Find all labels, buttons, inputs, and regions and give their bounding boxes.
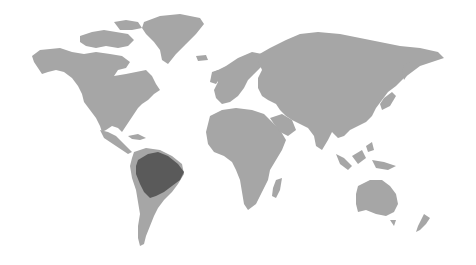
australia xyxy=(356,180,398,216)
new-zealand xyxy=(416,214,430,232)
land xyxy=(32,14,444,246)
north-america xyxy=(32,48,160,132)
arctic-islands xyxy=(80,30,134,48)
greenland xyxy=(142,14,204,64)
madagascar xyxy=(272,178,282,198)
world-map xyxy=(0,0,476,265)
central-america xyxy=(100,130,132,154)
